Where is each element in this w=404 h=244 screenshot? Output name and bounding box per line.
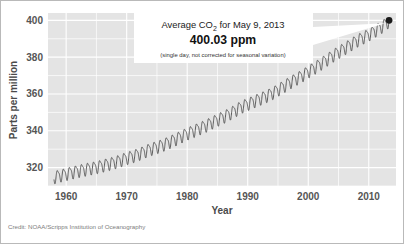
x-tick-1980: 1980 (176, 191, 199, 202)
y-axis-tick-labels: 320340360380400 (26, 15, 43, 173)
chart-canvas: 320340360380400 196019701980199020002010… (1, 1, 404, 244)
y-tick-320: 320 (26, 162, 43, 173)
y-tick-360: 360 (26, 88, 43, 99)
y-tick-340: 340 (26, 125, 43, 136)
annotation-title: Average CO2 for May 9, 2013 (161, 19, 284, 32)
x-tick-2010: 2010 (358, 191, 381, 202)
keeling-curve-svg: 320340360380400 196019701980199020002010… (1, 1, 404, 244)
x-axis-tick-labels: 196019701980199020002010 (55, 191, 380, 202)
x-axis-title: Year (211, 205, 232, 216)
annotation-title-prefix: Average CO (161, 19, 212, 30)
y-axis-title: Parts per million (8, 61, 19, 139)
x-tick-2000: 2000 (297, 191, 320, 202)
annotation-title-suffix: for May 9, 2013 (217, 19, 285, 30)
current-value-marker (386, 17, 393, 24)
x-tick-1970: 1970 (116, 191, 139, 202)
annotation-note: (single day, not corrected for seasonal … (160, 52, 285, 58)
co2-chart-figure: 320340360380400 196019701980199020002010… (0, 0, 404, 244)
x-tick-1960: 1960 (55, 191, 78, 202)
y-tick-400: 400 (26, 15, 43, 26)
credit-line: Credit: NOAA/Scripps Institution of Ocea… (8, 223, 146, 230)
y-tick-380: 380 (26, 52, 43, 63)
x-tick-1990: 1990 (237, 191, 260, 202)
annotation-value: 400.03 ppm (190, 33, 257, 47)
